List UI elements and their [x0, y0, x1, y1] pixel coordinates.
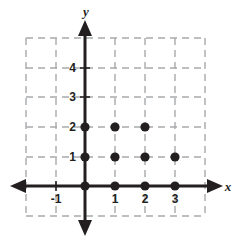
data-point	[140, 152, 149, 161]
data-point	[170, 181, 179, 190]
y-tick-label-3: 3	[69, 90, 76, 104]
x-tick-label--1: -1	[51, 192, 62, 206]
y-axis-label: y	[81, 4, 89, 19]
x-tick-label-1: 1	[112, 192, 119, 206]
y-tick-label-2: 2	[69, 120, 76, 134]
data-point	[170, 152, 179, 161]
data-point	[140, 122, 149, 131]
data-point	[140, 181, 149, 190]
data-point	[110, 122, 119, 131]
x-axis-label: x	[224, 179, 232, 194]
data-point	[110, 181, 119, 190]
data-point	[80, 181, 89, 190]
coordinate-plane-figure: 4 3 2 1 -1 1 2 3 x y	[0, 0, 239, 246]
plot-background	[0, 0, 239, 246]
x-tick-label-2: 2	[142, 192, 149, 206]
y-tick-label-4: 4	[69, 61, 76, 75]
coordinate-plane-svg: 4 3 2 1 -1 1 2 3 x y	[0, 0, 239, 246]
data-point	[80, 122, 89, 131]
y-tick-label-1: 1	[69, 150, 76, 164]
data-point	[110, 152, 119, 161]
x-tick-label-3: 3	[172, 192, 179, 206]
data-point	[80, 152, 89, 161]
